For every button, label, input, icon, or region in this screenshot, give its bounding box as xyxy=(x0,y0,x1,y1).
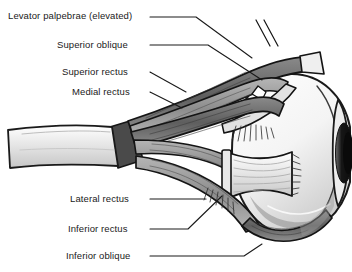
leader-superior-rectus xyxy=(150,72,186,92)
label-inferior-oblique: Inferior oblique xyxy=(66,251,130,261)
label-superior-rectus: Superior rectus xyxy=(62,67,128,77)
leader-levator-palpebrae xyxy=(150,17,252,58)
label-levator-palpebrae: Levator palpebrae (elevated) xyxy=(8,11,132,21)
leader-inferior-rectus xyxy=(150,196,222,229)
eye-muscle-diagram: Levator palpebrae (elevated) Superior ob… xyxy=(0,0,352,272)
label-inferior-rectus: Inferior rectus xyxy=(68,224,128,234)
optic-nerve xyxy=(8,126,118,168)
pointer-ticks xyxy=(256,20,278,46)
label-superior-oblique: Superior oblique xyxy=(57,40,128,50)
label-lateral-rectus: Lateral rectus xyxy=(70,194,129,204)
leader-inferior-oblique xyxy=(150,244,262,256)
leader-medial-rectus xyxy=(150,92,182,108)
label-medial-rectus: Medial rectus xyxy=(72,87,130,97)
anatomy-illustration xyxy=(0,0,352,272)
